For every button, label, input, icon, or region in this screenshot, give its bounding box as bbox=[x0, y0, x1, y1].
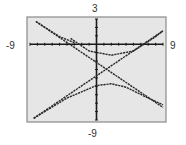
graph-screen bbox=[0, 0, 186, 145]
